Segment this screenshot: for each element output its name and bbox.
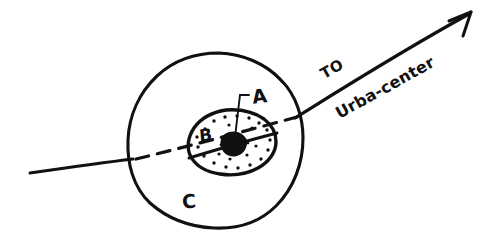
zone-b-label: B [198,124,212,147]
zone-c-label: C [181,190,196,213]
transect-solid-left [30,159,133,173]
zone-a-label: A [251,84,268,108]
diagram-canvas: A B C TO Urba-center [0,0,499,247]
diagram-svg [0,0,499,247]
